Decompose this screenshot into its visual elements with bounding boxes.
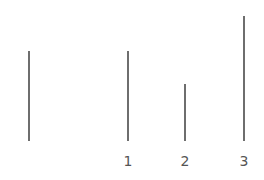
label-line-3: 3 xyxy=(234,152,254,170)
comparison-line-3 xyxy=(243,16,245,141)
label-line-2: 2 xyxy=(175,152,195,170)
label-line-1: 1 xyxy=(118,152,138,170)
comparison-line-2 xyxy=(184,84,186,141)
reference-line xyxy=(28,51,30,141)
comparison-line-1 xyxy=(127,51,129,141)
